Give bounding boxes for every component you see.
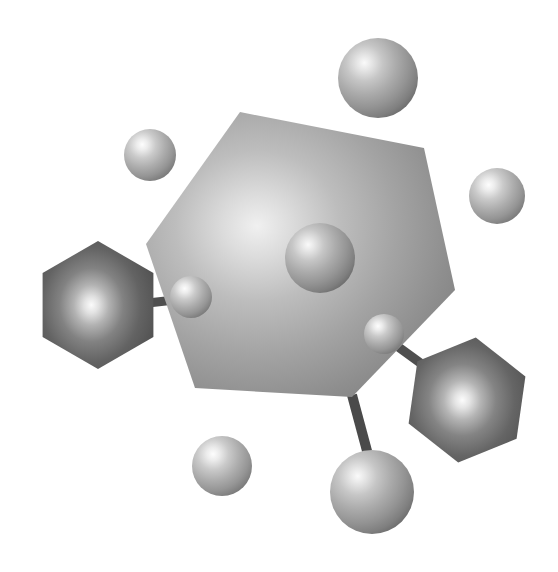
sphere-atom-top-left [124, 129, 176, 181]
sphere-atom-top-right [338, 38, 418, 118]
sphere-atom-core [285, 223, 355, 293]
illustration-canvas: Molecular Structure Illustration [0, 0, 558, 572]
sphere-atom-right-bond [364, 314, 404, 354]
sphere-atom-right-edge [469, 168, 525, 224]
sphere-atom-bottom [330, 450, 414, 534]
molecule-illustration [0, 0, 558, 572]
sphere-atom-bottom-left [192, 436, 252, 496]
sphere-atom-left-bond [170, 276, 212, 318]
